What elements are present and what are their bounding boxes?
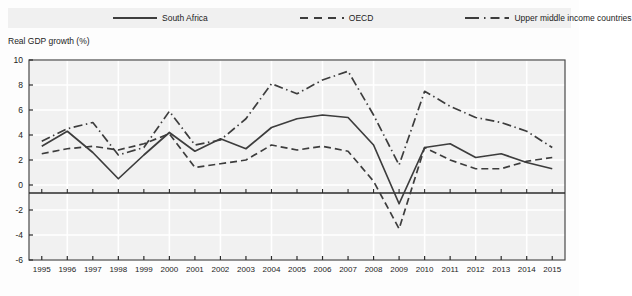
y-tick-label: 4 <box>3 131 23 140</box>
y-tick-label: -6 <box>3 256 23 265</box>
y-tick-label: -2 <box>3 206 23 215</box>
y-tick-label: 10 <box>3 56 23 65</box>
y-tick-label: 2 <box>3 156 23 165</box>
y-tick-label: -4 <box>3 231 23 240</box>
y-tick-label: 8 <box>3 81 23 90</box>
y-tick-label: 6 <box>3 106 23 115</box>
y-tick-label: 0 <box>3 181 23 190</box>
x-tick-label: 2015 <box>535 265 569 274</box>
